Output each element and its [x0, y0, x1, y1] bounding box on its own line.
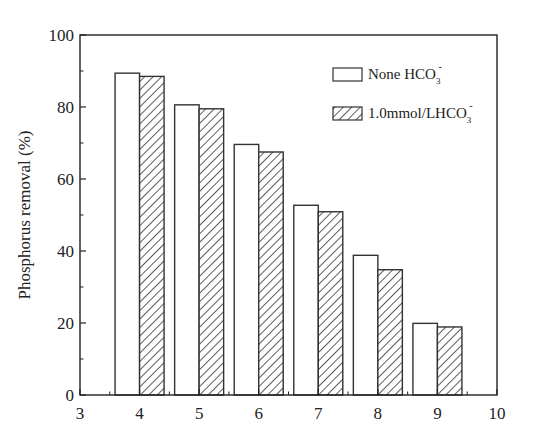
y-axis-title: Phosphorus removal (%) — [15, 130, 34, 299]
y-tick-label: 60 — [57, 170, 74, 189]
bar-hco3-6 — [259, 152, 284, 395]
bar-none-4 — [115, 73, 140, 395]
bar-none-5 — [175, 105, 200, 395]
x-tick-label: 8 — [374, 404, 383, 423]
bar-hco3-7 — [318, 212, 343, 395]
bar-none-9 — [413, 323, 438, 395]
x-tick-label: 10 — [489, 404, 506, 423]
bar-hco3-5 — [199, 109, 224, 395]
x-tick-label: 3 — [76, 404, 85, 423]
bar-chart: 020406080100345678910 None HCO3-1.0mmol/… — [0, 0, 534, 446]
x-tick-label: 9 — [433, 404, 442, 423]
x-tick-label: 5 — [195, 404, 204, 423]
legend: None HCO3-1.0mmol/LHCO3- — [333, 61, 473, 125]
bar-hco3-4 — [140, 76, 165, 395]
legend-label: 1.0mmol/LHCO3- — [368, 100, 473, 125]
y-tick-label: 100 — [49, 26, 75, 45]
bar-hco3-9 — [437, 327, 462, 395]
bar-none-7 — [294, 205, 319, 395]
x-tick-label: 7 — [314, 404, 323, 423]
legend-item-hco3: 1.0mmol/LHCO3- — [333, 100, 473, 125]
y-tick-label: 20 — [57, 314, 74, 333]
legend-swatch — [333, 68, 362, 81]
y-tick-label: 40 — [57, 242, 74, 261]
bar-none-8 — [353, 255, 378, 395]
legend-item-none: None HCO3- — [333, 61, 442, 86]
legend-swatch — [333, 107, 362, 120]
y-tick-label: 80 — [57, 98, 74, 117]
bars — [115, 73, 462, 395]
x-tick-label: 6 — [254, 404, 263, 423]
legend-label: None HCO3- — [368, 61, 442, 86]
bar-none-6 — [234, 144, 259, 395]
y-tick-label: 0 — [66, 386, 75, 405]
bar-hco3-8 — [378, 270, 403, 395]
x-tick-label: 4 — [135, 404, 144, 423]
